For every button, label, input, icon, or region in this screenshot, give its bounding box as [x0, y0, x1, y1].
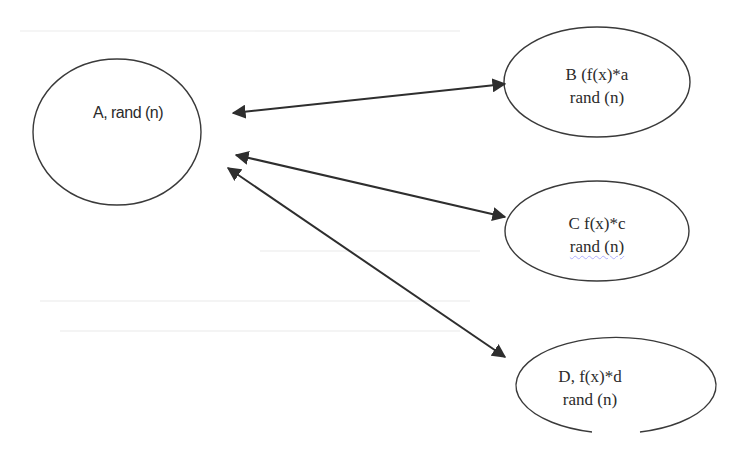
edge-a-d-arrow [228, 168, 505, 357]
node-b-label: B (f(x)*a rand (n) [566, 64, 629, 110]
node-d-label-line1: D, f(x)*d [558, 366, 621, 389]
background-noise [20, 30, 480, 332]
node-c-label-line1: C f(x)*c [568, 213, 625, 236]
edge-a-c-arrow [236, 155, 505, 217]
node-a-label-line1: A, rand (n) [93, 102, 163, 124]
node-b-label-line1: B (f(x)*a [566, 64, 629, 87]
node-a-ellipse[interactable] [33, 59, 201, 205]
node-d-label-line2: rand (n) [558, 389, 621, 412]
node-c-label: C f(x)*c rand (n) [568, 213, 625, 259]
node-d-label: D, f(x)*d rand (n) [558, 366, 621, 412]
node-c-label-line2: rand (n) [568, 236, 625, 259]
node-a-label: A, rand (n) [93, 102, 163, 124]
node-b-label-line2: rand (n) [566, 87, 629, 110]
edge-a-b-arrow [233, 84, 505, 113]
